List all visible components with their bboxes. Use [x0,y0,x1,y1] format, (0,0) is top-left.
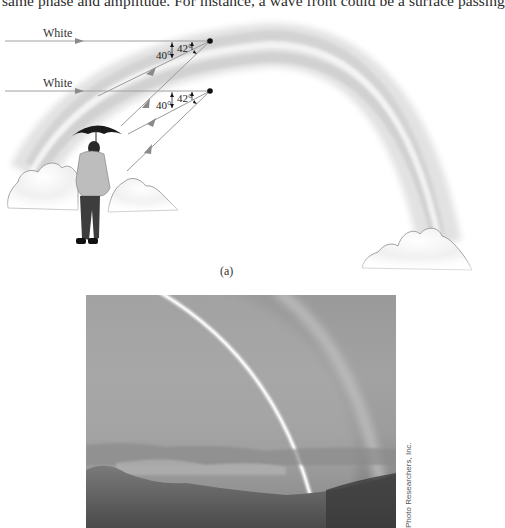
droplet-2 [207,88,213,94]
angle-40-label-2: 40° [156,99,171,111]
rainbow-diagram: White White 40° 42° 40° 42° [0,0,475,300]
figure-caption-a: (a) [220,264,233,279]
angle-40-label-1: 40° [156,49,171,61]
droplet-1 [207,38,213,44]
angle-42-label-2: 42° [177,92,192,104]
person-with-umbrella [72,125,122,244]
angle-42-label-1: 42° [177,42,192,54]
photo-credit: Photo Researchers, Inc. [404,442,413,528]
white-label-2: White [43,76,72,90]
white-label-1: White [43,26,72,40]
double-rainbow-photo [86,295,396,528]
